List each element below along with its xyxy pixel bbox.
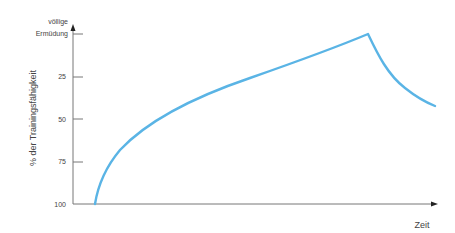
y-tick-label-75: 75 bbox=[58, 158, 66, 165]
y-tick-label-top-2: Ermüdung bbox=[36, 30, 68, 38]
fatigue-curve bbox=[95, 34, 435, 204]
y-tick-label-25: 25 bbox=[58, 73, 66, 80]
y-axis-arrow-icon bbox=[71, 24, 76, 31]
y-tick-label-top-1: völlige bbox=[48, 18, 68, 26]
x-axis-arrow-icon bbox=[431, 202, 438, 207]
y-tick-label-50: 50 bbox=[58, 116, 66, 123]
y-tick-label-100: 100 bbox=[54, 201, 66, 208]
fatigue-chart: völlige Ermüdung 25 50 75 100 % der Trai… bbox=[0, 0, 455, 233]
x-axis-title: Zeit bbox=[414, 220, 430, 230]
y-axis-title: % der Trainingsfähigkeit bbox=[28, 69, 38, 166]
